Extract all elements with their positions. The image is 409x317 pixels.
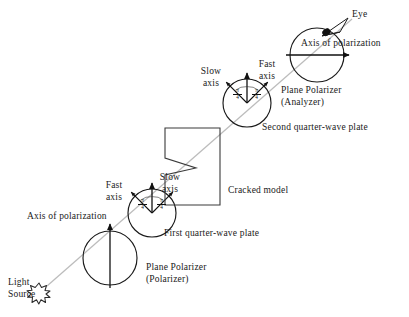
second-qwp-slow-axis-label-line2: axis xyxy=(194,78,228,89)
analyzer-name-line1: Plane Polarizer xyxy=(281,85,342,96)
analyzer-name-line2: (Analyzer) xyxy=(281,97,324,108)
second-qwp-left-angle-denominator: 4 xyxy=(233,95,242,100)
first-qwp-label: First quarter-wave plate xyxy=(164,228,259,239)
first-qwp-fast-axis-label-line2: axis xyxy=(99,192,129,203)
plane-polarizer-component xyxy=(83,224,137,288)
light-source-label-line2: Source xyxy=(8,289,36,300)
first-qwp-slow-axis-label-line2: axis xyxy=(154,184,186,195)
eye-label: Eye xyxy=(352,9,367,20)
second-qwp-left-angle-value: π 4 xyxy=(233,88,242,100)
second-qwp-right-angle-denominator: 4 xyxy=(252,95,261,100)
first-qwp-right-angle-value: π 4 xyxy=(157,198,166,210)
second-qwp-slow-axis-label-line1: Slow xyxy=(194,66,228,77)
first-qwp-right-angle-denominator: 4 xyxy=(157,205,166,210)
first-qwp-left-angle-numerator: π xyxy=(138,198,147,203)
second-qwp-fast-axis-label-line1: Fast xyxy=(252,59,282,70)
cracked-model-label: Cracked model xyxy=(228,185,288,196)
second-qwp-left-angle-numerator: π xyxy=(233,88,242,93)
polariscope-diagram: Eye Axis of polarization Plane Polarizer… xyxy=(0,0,409,317)
second-qwp-right-angle-numerator: π xyxy=(252,88,261,93)
second-qwp-label: Second quarter-wave plate xyxy=(262,122,368,133)
polarizer-axis-label: Axis of polarization xyxy=(27,211,107,222)
first-qwp-left-angle-denominator: 4 xyxy=(138,205,147,210)
light-source-label-line1: Light xyxy=(8,277,30,288)
second-qwp-right-angle-value: π 4 xyxy=(252,88,261,100)
light-ray-path xyxy=(47,19,352,286)
analyzer-component xyxy=(286,28,349,82)
second-qwp-fast-axis-label-line2: axis xyxy=(252,71,282,82)
first-qwp-right-angle-numerator: π xyxy=(157,198,166,203)
first-qwp-fast-axis-label-line1: Fast xyxy=(99,180,129,191)
polarizer-name-line1: Plane Polarizer xyxy=(146,262,207,273)
polarizer-name-line2: (Polarizer) xyxy=(146,274,189,285)
analyzer-axis-label: Axis of polarization xyxy=(301,38,381,49)
first-qwp-left-angle-value: π 4 xyxy=(138,198,147,210)
first-qwp-slow-axis-label-line1: Slow xyxy=(154,172,186,183)
